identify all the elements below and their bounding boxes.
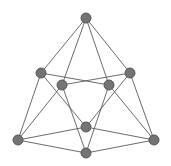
edge-bottom-right-center-lower	[86, 140, 154, 153]
node-inner-left	[57, 80, 67, 90]
node-left-outer	[36, 68, 46, 78]
edge-left-outer-inner-right	[41, 73, 109, 85]
edge-right-outer-bottom-right	[130, 73, 154, 140]
node-right-outer	[125, 68, 135, 78]
nodes-layer	[13, 13, 159, 158]
node-bottom-left	[13, 135, 23, 145]
edge-inner-right-bottom-right	[109, 85, 154, 140]
graph-diagram	[0, 0, 171, 166]
node-center-upper	[81, 122, 91, 132]
edge-top-inner-left	[62, 18, 86, 85]
edges-layer	[18, 18, 154, 153]
edge-right-outer-inner-left	[62, 73, 130, 85]
node-top	[81, 13, 91, 23]
edge-top-right-outer	[86, 18, 130, 73]
edge-inner-left-center-lower	[62, 85, 86, 153]
node-bottom-right	[149, 135, 159, 145]
edge-top-inner-right	[86, 18, 109, 85]
edge-bottom-right-center-upper	[86, 127, 154, 140]
edge-inner-left-bottom-left	[18, 85, 62, 140]
edge-bottom-left-center-upper	[18, 127, 86, 140]
node-inner-right	[104, 80, 114, 90]
edge-left-outer-bottom-left	[18, 73, 41, 140]
edge-top-left-outer	[41, 18, 86, 73]
node-center-lower	[81, 148, 91, 158]
edge-inner-right-center-lower	[86, 85, 109, 153]
edge-bottom-left-center-lower	[18, 140, 86, 153]
